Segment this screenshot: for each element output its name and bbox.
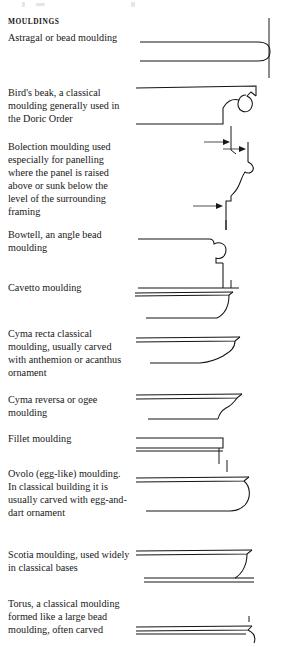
caption-fillet: Fillet moulding (8, 432, 130, 445)
figure-cavetto (130, 280, 282, 334)
figure-astragal (130, 16, 282, 84)
caption-bolection: Bolection moulding used especially for p… (8, 140, 130, 219)
caption-cyma-recta: Cyma recta classical moulding, usually c… (8, 327, 130, 379)
figure-cyma-recta (130, 330, 282, 388)
figure-torus (130, 616, 282, 647)
figure-scotia (130, 537, 282, 599)
caption-ovolo: Ovolo (egg-like) moulding. In classical … (8, 467, 130, 519)
caption-torus: Torus, a classical moulding formed like … (8, 597, 130, 636)
mouldings-reference-page: MOULDINGS Astragal or bead moulding Bird… (0, 0, 282, 647)
caption-scotia: Scotia moulding, used widely in classica… (8, 548, 130, 574)
caption-astragal: Astragal or bead moulding (8, 31, 130, 44)
caption-cavetto: Cavetto moulding (8, 281, 130, 294)
caption-cyma-reversa: Cyma reversa or ogee moulding (8, 393, 130, 419)
page-title: MOULDINGS (8, 17, 59, 26)
figure-ovolo (130, 460, 282, 532)
cropped-text-remnant (0, 0, 282, 12)
caption-birds-beak: Bird's beak, a classical moulding genera… (8, 86, 130, 125)
caption-bowtell: Bowtell, an angle bead moulding (8, 228, 130, 254)
